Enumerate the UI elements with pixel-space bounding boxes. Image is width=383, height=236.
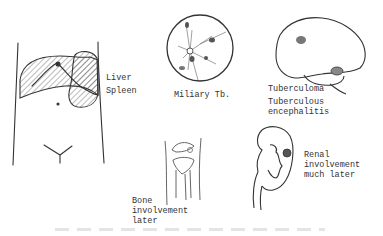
tuberculoma-label: Tuberculoma (268, 84, 324, 94)
miliary-tb-label: Miliary Tb. (174, 90, 230, 100)
spleen-label: Spleen (106, 86, 137, 96)
renal-involvement-label: involvement (304, 160, 360, 170)
tuberculous-label: Tuberculous (268, 97, 324, 107)
later-label: later (132, 216, 158, 226)
liver-label: Liver (106, 73, 132, 83)
involvement-label: involvement (132, 206, 188, 216)
abdomen-illustration (13, 42, 104, 165)
renal-label: Renal (304, 150, 330, 160)
miliary-illustration (167, 15, 233, 81)
brain-illustration (276, 18, 365, 94)
encephalitis-label: encephalitis (268, 107, 329, 117)
diagram-canvas: Liver Spleen Miliary Tb. Tuberculoma Tub… (0, 0, 383, 236)
illegible-caption (55, 228, 325, 231)
knee-illustration (165, 138, 201, 205)
bone-label: Bone (132, 196, 152, 206)
kidney-illustration (253, 127, 293, 210)
much-later-label: much later (304, 170, 355, 180)
